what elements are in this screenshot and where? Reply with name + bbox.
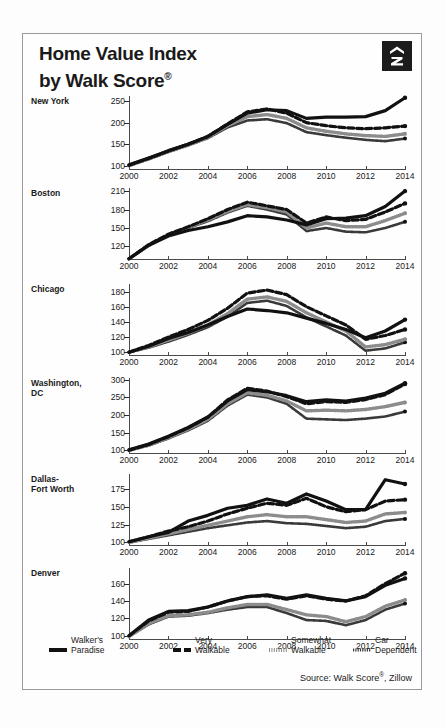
- x-axis-tick-label: 2002: [159, 172, 178, 181]
- y-axis-tick-label: 150: [111, 140, 125, 149]
- series-line-solid: [129, 383, 405, 449]
- legend-label-bottom: Walkable: [195, 645, 230, 655]
- legend-swatch-dotted: [269, 645, 287, 655]
- x-axis-labels: 20002002200420062008201020122014: [129, 172, 405, 183]
- x-axis-tick-label: 2006: [238, 548, 257, 557]
- x-axis-tick-label: 2008: [277, 262, 296, 271]
- series-end-marker: [403, 137, 407, 141]
- plot-area: 120150180210: [129, 188, 405, 260]
- y-axis-tick-label: 140: [111, 318, 125, 327]
- x-axis-tick-label: 2008: [277, 548, 296, 557]
- y-axis-tick-label: 140: [111, 597, 125, 606]
- y-axis-tick-label: 160: [111, 302, 125, 311]
- series-group: [129, 188, 405, 260]
- chart-legend: Walker'sParadiseVeryWalkableSomewhatWalk…: [23, 635, 423, 665]
- legend-item: CarDependent: [375, 635, 417, 655]
- x-axis-tick-label: 2008: [277, 358, 296, 367]
- y-axis-tick-label: 100: [111, 348, 125, 357]
- x-axis-tick-label: 2010: [317, 358, 336, 367]
- legend-swatch-solid: [49, 645, 67, 655]
- legend-label-top: Walker's: [71, 635, 105, 645]
- x-axis-tick-label: 2012: [356, 548, 375, 557]
- x-axis-tick-label: 2010: [317, 262, 336, 271]
- x-axis-tick-label: 2014: [396, 456, 415, 465]
- chart-panel: Dallas-Fort Worth10012515017520002002200…: [23, 474, 423, 560]
- series-end-marker: [403, 327, 407, 331]
- y-axis-tick-label: 180: [111, 287, 125, 296]
- series-line-wavy: [129, 119, 405, 165]
- plot-area: 100150200250: [129, 96, 405, 170]
- series-group: [129, 568, 405, 640]
- x-axis-tick-label: 2002: [159, 358, 178, 367]
- legend-label-top: Somewhat: [291, 635, 331, 645]
- x-axis-tick-label: 2006: [238, 358, 257, 367]
- y-axis-tick-label: 160: [111, 579, 125, 588]
- legend-swatch-wavy: [353, 645, 371, 655]
- city-label-line-2: Fort Worth: [31, 484, 74, 494]
- legend-label-top: Very: [195, 635, 230, 645]
- x-axis-tick-label: 2012: [356, 456, 375, 465]
- x-axis-tick-label: 2004: [198, 262, 217, 271]
- x-axis-tick-label: 2012: [356, 358, 375, 367]
- chart-panel: New York10015020025020002002200420062008…: [23, 96, 423, 184]
- x-axis-tick-label: 2000: [120, 358, 139, 367]
- x-axis-tick-label: 2008: [277, 456, 296, 465]
- legend-label-bottom: Walkable: [291, 645, 331, 655]
- series-line-wavy: [129, 604, 405, 637]
- city-label-line-1: Washington,: [31, 378, 82, 388]
- series-end-marker: [403, 132, 407, 136]
- x-axis-tick: [405, 166, 406, 170]
- y-axis-tick-label: 300: [111, 376, 125, 385]
- x-axis-tick-label: 2000: [120, 172, 139, 181]
- series-end-marker: [403, 381, 407, 385]
- series-line-solid: [129, 480, 405, 542]
- x-axis-tick-label: 2004: [198, 358, 217, 367]
- x-axis-labels: 20002002200420062008201020122014: [129, 456, 405, 467]
- registered-mark: ®: [164, 71, 171, 82]
- y-axis-tick-label: 120: [111, 333, 125, 342]
- series-end-marker: [403, 400, 407, 404]
- y-axis-tick-label: 125: [111, 520, 125, 529]
- series-end-marker: [403, 598, 407, 602]
- y-axis-tick-label: 100: [111, 161, 125, 170]
- y-axis-tick-label: 175: [111, 485, 125, 494]
- series-end-marker: [403, 517, 407, 521]
- city-label-line-2: DC: [31, 388, 43, 398]
- x-axis-tick-label: 2012: [356, 262, 375, 271]
- series-end-marker: [403, 497, 407, 501]
- zillow-logo: [382, 41, 412, 71]
- panel-city-label: New York: [31, 96, 103, 106]
- y-axis-tick-label: 250: [111, 97, 125, 106]
- series-line-solid: [129, 191, 405, 259]
- series-line-dotted: [129, 297, 405, 352]
- x-axis-tick-label: 2004: [198, 548, 217, 557]
- legend-label-bottom: Dependent: [375, 645, 417, 655]
- series-line-dotted: [129, 600, 405, 636]
- x-axis-tick-label: 2006: [238, 456, 257, 465]
- series-end-marker: [403, 337, 407, 341]
- legend-item: SomewhatWalkable: [291, 635, 331, 655]
- series-line-dotted: [129, 393, 405, 451]
- y-axis-tick-label: 250: [111, 393, 125, 402]
- panel-city-label: Washington,DC: [31, 378, 103, 398]
- series-end-marker: [403, 482, 407, 486]
- y-axis-tick-label: 180: [111, 205, 125, 214]
- x-axis-labels: 20002002200420062008201020122014: [129, 548, 405, 559]
- x-axis-tick-label: 2014: [396, 548, 415, 557]
- x-axis-tick-label: 2000: [120, 456, 139, 465]
- series-end-marker: [403, 189, 407, 193]
- plot-area: 100120140160180: [129, 284, 405, 356]
- series-end-marker: [403, 124, 407, 128]
- series-end-marker: [403, 571, 407, 575]
- title-line-1: Home Value Index: [39, 43, 197, 64]
- series-end-marker: [403, 201, 407, 205]
- legend-label-bottom: Paradise: [71, 645, 105, 655]
- y-axis-tick-label: 100: [111, 538, 125, 547]
- series-end-marker: [403, 576, 407, 580]
- series-group: [129, 96, 405, 170]
- series-group: [129, 378, 405, 454]
- page-title: Home Value Index by Walk Score®: [39, 42, 197, 92]
- panel-city-label: Denver: [31, 568, 103, 578]
- x-axis-tick: [405, 542, 406, 546]
- source-text-after: , Zillow: [384, 673, 412, 683]
